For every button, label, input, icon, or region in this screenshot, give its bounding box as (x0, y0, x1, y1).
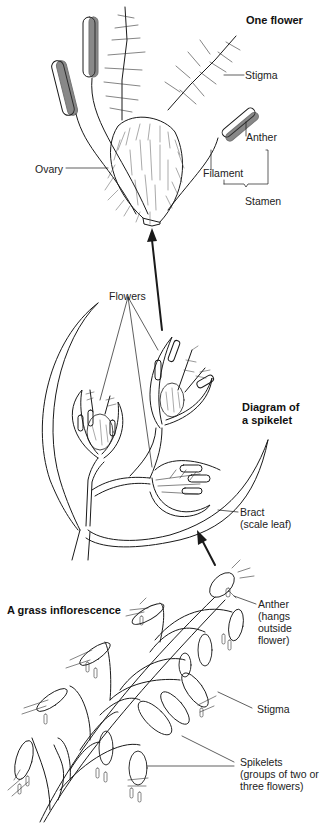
spikelet-title-line2: a spikelet (242, 414, 292, 427)
label-anther-flower: Anther (246, 131, 277, 143)
label-anther-inflorescence-3: outside (258, 622, 292, 634)
one-flower-illustration (50, 7, 268, 226)
label-anther-inflorescence-4: flower) (258, 634, 290, 646)
label-stigma-flower: Stigma (245, 69, 278, 81)
label-ovary: Ovary (35, 163, 63, 175)
spikelet-illustration (42, 297, 268, 560)
label-bract: Bract (240, 506, 265, 518)
inflorescence-illustration (8, 560, 256, 822)
label-flowers: Flowers (109, 290, 146, 302)
label-spikelets-3: three flowers) (240, 780, 304, 792)
label-stamen: Stamen (245, 195, 281, 207)
one-flower-title: One flower (246, 14, 303, 27)
ovary-shape (110, 117, 182, 222)
stigma-left (122, 7, 127, 120)
label-spikelets-2: (groups of two or (240, 768, 319, 780)
label-bract-note: (scale leaf) (240, 518, 291, 530)
spikelet-top (205, 568, 239, 602)
label-filament: Filament (203, 167, 243, 179)
spikelet-title-line1: Diagram of (242, 401, 299, 414)
label-anther-inflorescence-1: Anther (258, 598, 289, 610)
label-anther-inflorescence-2: (hangs (258, 610, 290, 622)
stigma-right (168, 36, 236, 110)
label-spikelets-1: Spikelets (240, 756, 283, 768)
label-stigma-inflorescence: Stigma (257, 703, 290, 715)
inflorescence-title: A grass inflorescence (7, 604, 121, 617)
